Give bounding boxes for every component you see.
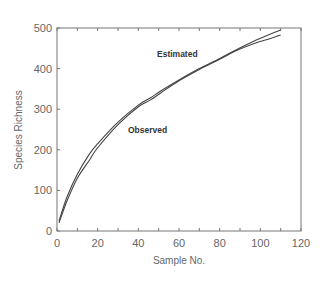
y-tick-label: 400: [34, 63, 52, 75]
x-tick-labels: 020406080100120: [54, 237, 310, 249]
y-tick-label: 500: [34, 22, 52, 34]
y-tick-label: 0: [46, 225, 52, 237]
species-richness-chart: 020406080100120 0100200300400500 Estimat…: [0, 0, 326, 282]
x-axis-title: Sample No.: [153, 255, 205, 266]
x-tick-label: 80: [214, 237, 226, 249]
y-tick-label: 200: [34, 144, 52, 156]
x-tick-label: 0: [54, 237, 60, 249]
x-tick-label: 100: [251, 237, 269, 249]
x-tick-label: 40: [132, 237, 144, 249]
x-tick-label: 60: [173, 237, 185, 249]
annotation-observed: Observed: [128, 125, 167, 135]
annotation-estimated: Estimated: [157, 49, 198, 59]
series-observed-line: [59, 35, 281, 223]
y-tick-labels: 0100200300400500: [34, 22, 52, 237]
y-axis-title: Species Richness: [13, 90, 24, 169]
x-tick-label: 20: [92, 237, 104, 249]
x-tick-label: 120: [292, 237, 310, 249]
y-tick-label: 100: [34, 184, 52, 196]
y-tick-label: 300: [34, 103, 52, 115]
